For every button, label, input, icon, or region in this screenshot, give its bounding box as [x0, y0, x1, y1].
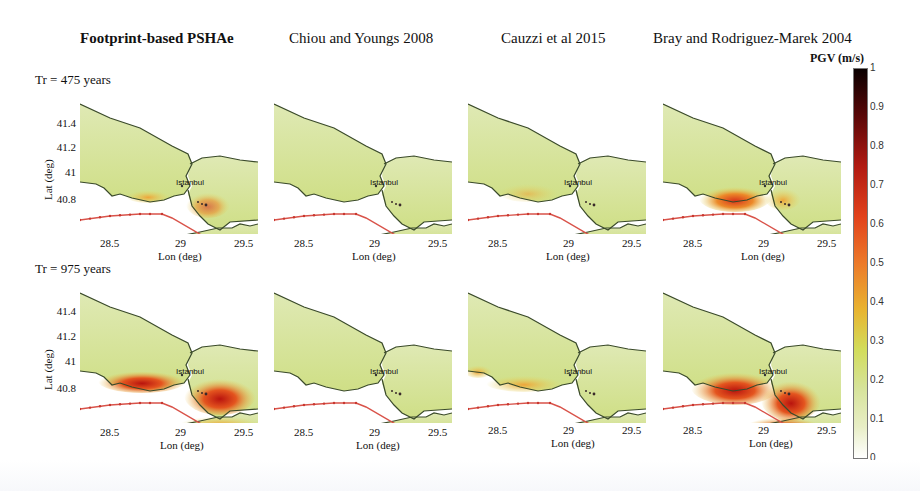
xtick: 28.5 — [294, 426, 313, 438]
map-panel-475-footprint — [80, 102, 258, 234]
bottom-fade — [0, 460, 920, 491]
colorbar-tick: 0.6 — [870, 218, 884, 229]
colorbar-tick: 1 — [870, 62, 876, 73]
xlabel: Lon (deg) — [356, 439, 400, 451]
column-title-cauzzi: Cauzzi et al 2015 — [501, 30, 606, 47]
xtick: 28.5 — [488, 424, 507, 436]
column-title-bray-rodriguez: Bray and Rodriguez-Marek 2004 — [653, 30, 852, 47]
city-label-istanbul: Istanbul — [564, 367, 592, 376]
xtick: 29 — [175, 426, 186, 438]
xtick: 29 — [563, 424, 574, 436]
colorbar-tick: 0.3 — [870, 335, 884, 346]
colorbar-tick: 0.8 — [870, 140, 884, 151]
ytick: 41.4 — [46, 305, 76, 317]
xtick: 29.5 — [622, 237, 641, 249]
map-panel-475-chiou-youngs — [274, 102, 452, 234]
ytick: 41.2 — [46, 330, 76, 342]
map-panel-975-chiou-youngs — [274, 291, 452, 423]
city-label-istanbul: Istanbul — [759, 367, 787, 376]
xtick: 28.5 — [100, 237, 119, 249]
row-label-975: Tr = 975 years — [35, 261, 111, 277]
city-label-istanbul: Istanbul — [564, 178, 592, 187]
column-title-chiou-youngs: Chiou and Youngs 2008 — [289, 30, 433, 47]
ytick: 41 — [46, 355, 76, 367]
ytick: 40.8 — [46, 382, 76, 394]
map-panel-975-cauzzi — [468, 291, 646, 423]
map-panel-975-footprint — [80, 291, 258, 423]
xlabel: Lon (deg) — [158, 250, 202, 262]
xtick: 28.5 — [100, 426, 119, 438]
map-panel-475-bray-rodriguez — [663, 102, 841, 234]
xtick: 28.5 — [294, 237, 313, 249]
city-label-istanbul: Istanbul — [759, 178, 787, 187]
colorbar-tick: 0.2 — [870, 374, 884, 385]
xtick: 29 — [758, 237, 769, 249]
city-label-istanbul: Istanbul — [176, 367, 204, 376]
xlabel: Lon (deg) — [160, 439, 204, 451]
ytick: 40.8 — [46, 193, 76, 205]
xtick: 29.5 — [234, 237, 253, 249]
xtick: 29.5 — [428, 426, 447, 438]
ytick: 41.2 — [46, 141, 76, 153]
xtick: 29 — [175, 237, 186, 249]
xlabel: Lon (deg) — [546, 250, 590, 262]
xlabel: Lon (deg) — [741, 250, 785, 262]
ytick: 41.4 — [46, 117, 76, 129]
column-title-footprint: Footprint-based PSHAe — [80, 30, 234, 47]
xtick: 29 — [758, 424, 769, 436]
xtick: 29 — [369, 426, 380, 438]
xtick: 29.5 — [428, 237, 447, 249]
xlabel: Lon (deg) — [352, 250, 396, 262]
xtick: 29.5 — [817, 424, 836, 436]
xtick: 28.5 — [488, 237, 507, 249]
city-label-istanbul: Istanbul — [370, 367, 398, 376]
colorbar-tick: 0.5 — [870, 257, 884, 268]
map-panel-975-bray-rodriguez — [663, 291, 841, 423]
city-label-istanbul: Istanbul — [370, 178, 398, 187]
xtick: 28.5 — [683, 424, 702, 436]
row-label-475: Tr = 475 years — [35, 72, 111, 88]
city-label-istanbul: Istanbul — [176, 178, 204, 187]
colorbar — [853, 68, 868, 459]
xtick: 28.5 — [683, 237, 702, 249]
colorbar-tick: 0.9 — [870, 101, 884, 112]
xtick: 29.5 — [817, 237, 836, 249]
colorbar-tick: 0.4 — [870, 296, 884, 307]
xtick: 29.5 — [234, 426, 253, 438]
map-panel-475-cauzzi — [468, 102, 646, 234]
colorbar-tick: 0.7 — [870, 179, 884, 190]
colorbar-title: PGV (m/s) — [810, 51, 864, 66]
xtick: 29.5 — [622, 424, 641, 436]
ytick: 41 — [46, 166, 76, 178]
xlabel: Lon (deg) — [551, 437, 595, 449]
xtick: 29 — [563, 237, 574, 249]
colorbar-tick: 0.1 — [870, 413, 884, 424]
xtick: 29 — [369, 237, 380, 249]
xlabel: Lon (deg) — [749, 437, 793, 449]
